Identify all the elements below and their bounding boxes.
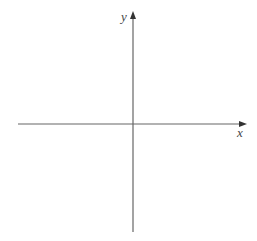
y-axis-label: y	[119, 9, 127, 24]
y-axis-arrow-icon	[130, 11, 136, 19]
x-axis-label: x	[236, 125, 243, 140]
y-axis	[130, 11, 136, 232]
coordinate-plane: x y	[0, 0, 257, 241]
